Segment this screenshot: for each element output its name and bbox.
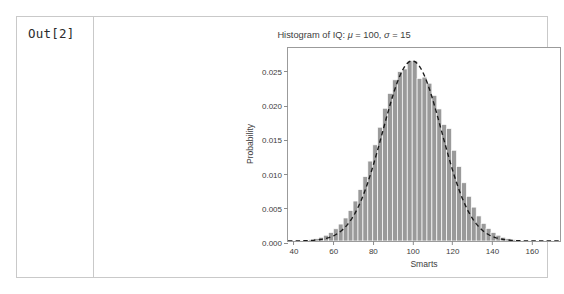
histogram-bar (328, 233, 333, 241)
x-axis-tick-label: 80 (369, 241, 378, 256)
histogram-bar (383, 108, 388, 241)
histogram-bar (422, 77, 427, 241)
x-axis-tick-label: 160 (526, 241, 539, 256)
matplotlib-figure: Histogram of IQ: μ = 100, σ = 15 0.0000.… (194, 30, 494, 262)
histogram-bar (447, 129, 452, 241)
histogram-bar (373, 145, 378, 241)
histogram-bar (417, 78, 422, 241)
histogram-plot-area (288, 48, 560, 241)
histogram-bar (348, 211, 353, 241)
x-axis-tick-label: 140 (486, 241, 499, 256)
y-axis-tick-label: 0.015 (262, 136, 288, 145)
chart-title-sigma-value: = 15 (390, 30, 411, 40)
chart-title-mu-value: = 100, (353, 30, 384, 40)
histogram-bar (353, 201, 358, 241)
histogram-bar (412, 61, 417, 241)
y-axis-tick-label: 0.000 (262, 239, 288, 248)
histogram-bar (452, 150, 457, 241)
histogram-bar (461, 183, 466, 241)
x-axis-label: Smarts (287, 259, 561, 269)
histogram-bar (368, 161, 373, 241)
histogram-bar (491, 233, 496, 241)
histogram-bar (338, 224, 343, 241)
histogram-bar (481, 223, 486, 241)
plot-axes: 0.0000.0050.0100.0150.0200.025 406080100… (287, 47, 561, 242)
y-axis-tick-label: 0.020 (262, 102, 288, 111)
y-axis-tick-label: 0.025 (262, 67, 288, 76)
histogram-bars (304, 61, 526, 241)
histogram-bar (476, 216, 481, 241)
output-prompt-column: Out[2] (17, 17, 94, 277)
histogram-bar (432, 95, 437, 241)
histogram-bar (392, 80, 397, 241)
histogram-bar (466, 196, 471, 241)
histogram-bar (471, 207, 476, 241)
histogram-bar (378, 127, 383, 241)
y-axis-tick-label: 0.005 (262, 204, 288, 213)
x-axis-tick-label: 60 (329, 241, 338, 256)
histogram-bar (427, 83, 432, 241)
histogram-bar (407, 61, 412, 241)
histogram-bar (343, 218, 348, 241)
chart-title: Histogram of IQ: μ = 100, σ = 15 (194, 30, 494, 40)
y-axis-label: Probability (245, 124, 255, 164)
histogram-bar (388, 93, 393, 241)
notebook-output-cell: Out[2] Histogram of IQ: μ = 100, σ = 15 … (16, 16, 548, 278)
chart-title-prefix: Histogram of IQ: (277, 30, 347, 40)
x-axis-tick-label: 40 (290, 241, 299, 256)
y-axis-tick-label: 0.010 (262, 170, 288, 179)
histogram-bar (402, 69, 407, 241)
output-prompt-label: Out[2] (28, 26, 93, 41)
histogram-bar (397, 72, 402, 241)
output-content-column: Histogram of IQ: μ = 100, σ = 15 0.0000.… (94, 17, 547, 277)
histogram-bar (437, 109, 442, 241)
histogram-bar (457, 167, 462, 241)
x-axis-tick-label: 100 (406, 241, 419, 256)
x-axis-tick-label: 120 (446, 241, 459, 256)
screenshot-root: Out[2] Histogram of IQ: μ = 100, σ = 15 … (0, 0, 564, 294)
